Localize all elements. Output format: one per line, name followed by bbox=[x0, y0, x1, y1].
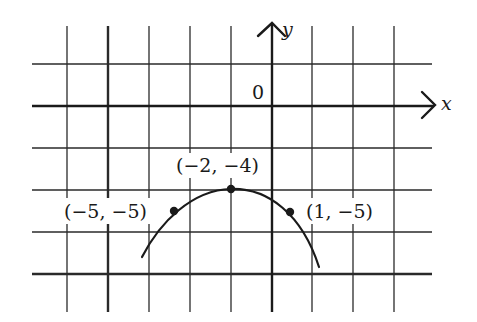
x-axis-label: x bbox=[441, 92, 452, 114]
y-axis-label: y bbox=[281, 18, 293, 40]
origin-label: 0 bbox=[252, 81, 264, 103]
vertex-label: (−2, −4) bbox=[176, 154, 259, 176]
point-label-left: (−5, −5) bbox=[64, 200, 147, 222]
x-axis bbox=[32, 92, 435, 118]
point-marker-left bbox=[170, 207, 178, 215]
parabola-graph: x y 0 (−5, −5) (−2, −4) (1, −5) bbox=[0, 0, 477, 322]
point-marker-right bbox=[286, 208, 294, 216]
vertex-marker bbox=[227, 185, 235, 193]
point-label-right: (1, −5) bbox=[306, 200, 373, 222]
